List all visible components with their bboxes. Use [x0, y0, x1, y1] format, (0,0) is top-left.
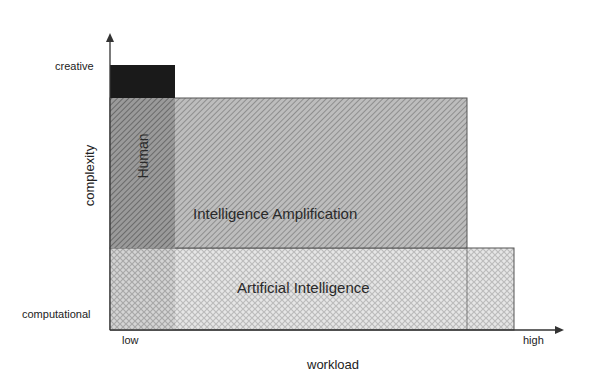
x-axis-arrow-icon	[555, 326, 564, 334]
x-axis-title: workload	[307, 357, 359, 372]
y-axis-arrow-icon	[106, 33, 114, 42]
y-axis-max-label: creative	[55, 60, 94, 72]
y-axis-title: complexity	[83, 144, 98, 205]
x-axis-max-label: high	[523, 334, 544, 346]
region-creative-block	[110, 65, 175, 98]
x-axis-min-label: low	[122, 334, 139, 346]
intelligence-amplification-label: Intelligence Amplification	[193, 205, 357, 222]
artificial-intelligence-label: Artificial Intelligence	[237, 279, 370, 296]
human-label: Human	[135, 133, 151, 178]
y-axis-min-label: computational	[22, 308, 91, 320]
